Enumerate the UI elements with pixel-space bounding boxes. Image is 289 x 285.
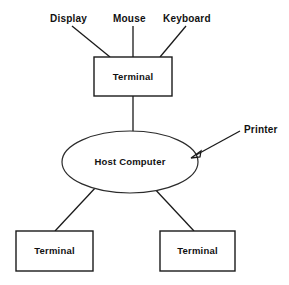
printer-leader-line	[196, 131, 240, 155]
node-label-terminal-top: Terminal	[113, 71, 154, 82]
annotation-label-printer: Printer	[244, 124, 278, 135]
node-label-terminal-bottom-left: Terminal	[34, 245, 75, 256]
peripheral-label-display: Display	[50, 13, 87, 24]
display-connector-line	[72, 26, 110, 57]
link-host-to-terminal-bottom-left	[55, 186, 97, 231]
network-diagram: Display Mouse Keyboard Terminal Host Com…	[0, 0, 289, 285]
node-label-terminal-bottom-right: Terminal	[177, 245, 218, 256]
node-label-host-computer: Host Computer	[94, 156, 165, 167]
peripheral-label-keyboard: Keyboard	[163, 13, 211, 24]
link-host-to-terminal-bottom-right	[152, 186, 194, 231]
keyboard-connector-line	[160, 26, 186, 57]
diagram-canvas: Display Mouse Keyboard Terminal Host Com…	[0, 0, 289, 285]
peripheral-label-mouse: Mouse	[113, 13, 146, 24]
